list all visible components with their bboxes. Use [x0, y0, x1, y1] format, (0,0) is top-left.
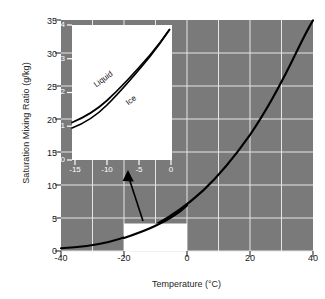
chart-figure: Saturation Mixing Ratio (g/kg) Temperatu… — [0, 0, 325, 299]
zoom-highlight-box — [124, 224, 187, 252]
inset-x-tick-label: -10 — [95, 166, 119, 174]
inset-x-tick-label: -5 — [127, 166, 151, 174]
inset-y-tick-label: 0 — [53, 156, 65, 164]
inset-y-tick-label: 2 — [53, 88, 65, 96]
plot-canvas — [0, 0, 325, 299]
inset-x-tick-label: 0 — [159, 166, 183, 174]
inset-y-tick-label: 3 — [53, 55, 65, 63]
detail-inset — [67, 25, 172, 165]
inset-x-tick-label: -15 — [63, 166, 87, 174]
inset-y-tick-label: 4 — [53, 21, 65, 29]
inset-y-tick-label: 1 — [53, 122, 65, 130]
